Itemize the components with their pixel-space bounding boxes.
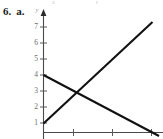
y-axis-arrow-icon bbox=[41, 9, 47, 16]
coordinate-plot: y 7 6 5 4 3 2 1 bbox=[0, 0, 163, 139]
y-tick-label-1: 1 bbox=[34, 118, 38, 127]
y-tick-label-4: 4 bbox=[34, 70, 38, 79]
ascending-line bbox=[44, 22, 153, 124]
y-tick-label-2: 2 bbox=[34, 102, 38, 111]
y-axis-label: y bbox=[34, 6, 39, 14]
y-tick-label-6: 6 bbox=[34, 38, 38, 47]
descending-line bbox=[44, 75, 160, 136]
y-tick-label-5: 5 bbox=[34, 54, 38, 63]
y-tick-label-7: 7 bbox=[34, 22, 38, 31]
y-tick-label-3: 3 bbox=[34, 86, 38, 95]
figure-container: a r 6.a. y 7 6 5 4 3 2 1 bbox=[0, 0, 163, 139]
